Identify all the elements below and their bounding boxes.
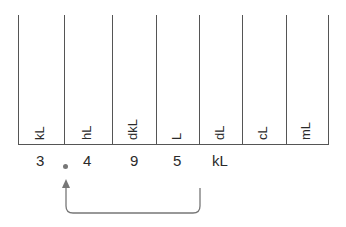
decimal-shift-arrow-icon (0, 0, 346, 227)
